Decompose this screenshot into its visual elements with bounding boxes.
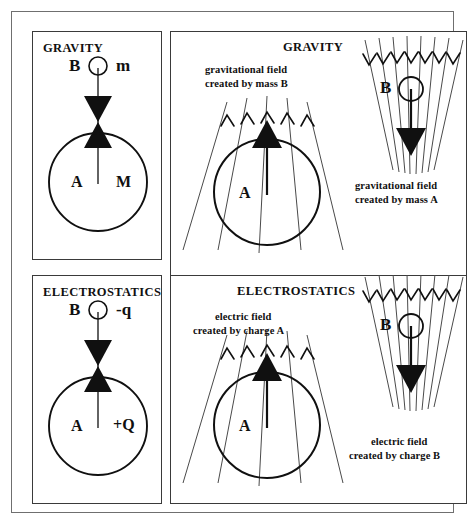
mass-b-field-vector-head [396,128,426,156]
gravity-source-b-label: B [380,78,391,97]
force-arrow-down [84,96,112,122]
electric-field-a-caption-line2: created by charge A [193,325,284,337]
figure-outer-frame: GRAVITY B m A M ELECTROSTATICS [11,11,454,513]
panel-fields: GRAVITY [170,31,467,504]
gravity-field-a-caption-line2: created by mass A [355,194,438,206]
mass-a-field-vector-head [252,120,282,148]
gravity-body-b-mass-symbol: m [116,56,130,75]
force-arrow-up [84,366,112,392]
electro-charge-a-symbol: +Q [113,416,135,434]
electrostatic-force-drawing [33,276,162,504]
gravity-body-b-label: B [69,56,80,75]
electric-field-b-caption-line2: created by charge B [349,450,440,462]
force-arrow-up [84,122,112,148]
panel-electrostatics-forces: ELECTROSTATICS B -q A +Q [32,275,162,504]
electric-field-b-caption-line1: electric field [371,436,428,448]
gravity-force-drawing [33,32,162,260]
gravity-source-a-label: A [239,184,251,202]
electro-charge-b-symbol: -q [116,300,131,319]
electric-source-a-label: A [239,417,251,435]
electrostatic-field-drawing [171,275,467,504]
gravity-field-a-caption-line1: gravitational field [355,180,437,192]
panel-electrostatics-forces-title: ELECTROSTATICS [43,285,161,299]
charge-b-field-vector-head [396,365,426,393]
panel-gravity-forces: GRAVITY B m A M [32,31,162,260]
gravity-field-b-caption-line2: created by mass B [205,78,288,90]
gravity-body-a-mass-symbol: M [116,173,131,191]
electric-source-b-label: B [380,315,391,334]
electric-field-a-caption-line1: electric field [215,311,272,323]
electro-charge-a-label: A [71,417,83,435]
force-arrow-down [84,340,112,366]
gravity-field-b-caption-line1: gravitational field [205,64,287,76]
charge-a-field-vector-head [252,353,282,381]
electro-charge-b-label: B [69,300,80,319]
gravity-body-a-label: A [71,173,83,191]
panel-gravity-forces-title: GRAVITY [43,41,103,55]
